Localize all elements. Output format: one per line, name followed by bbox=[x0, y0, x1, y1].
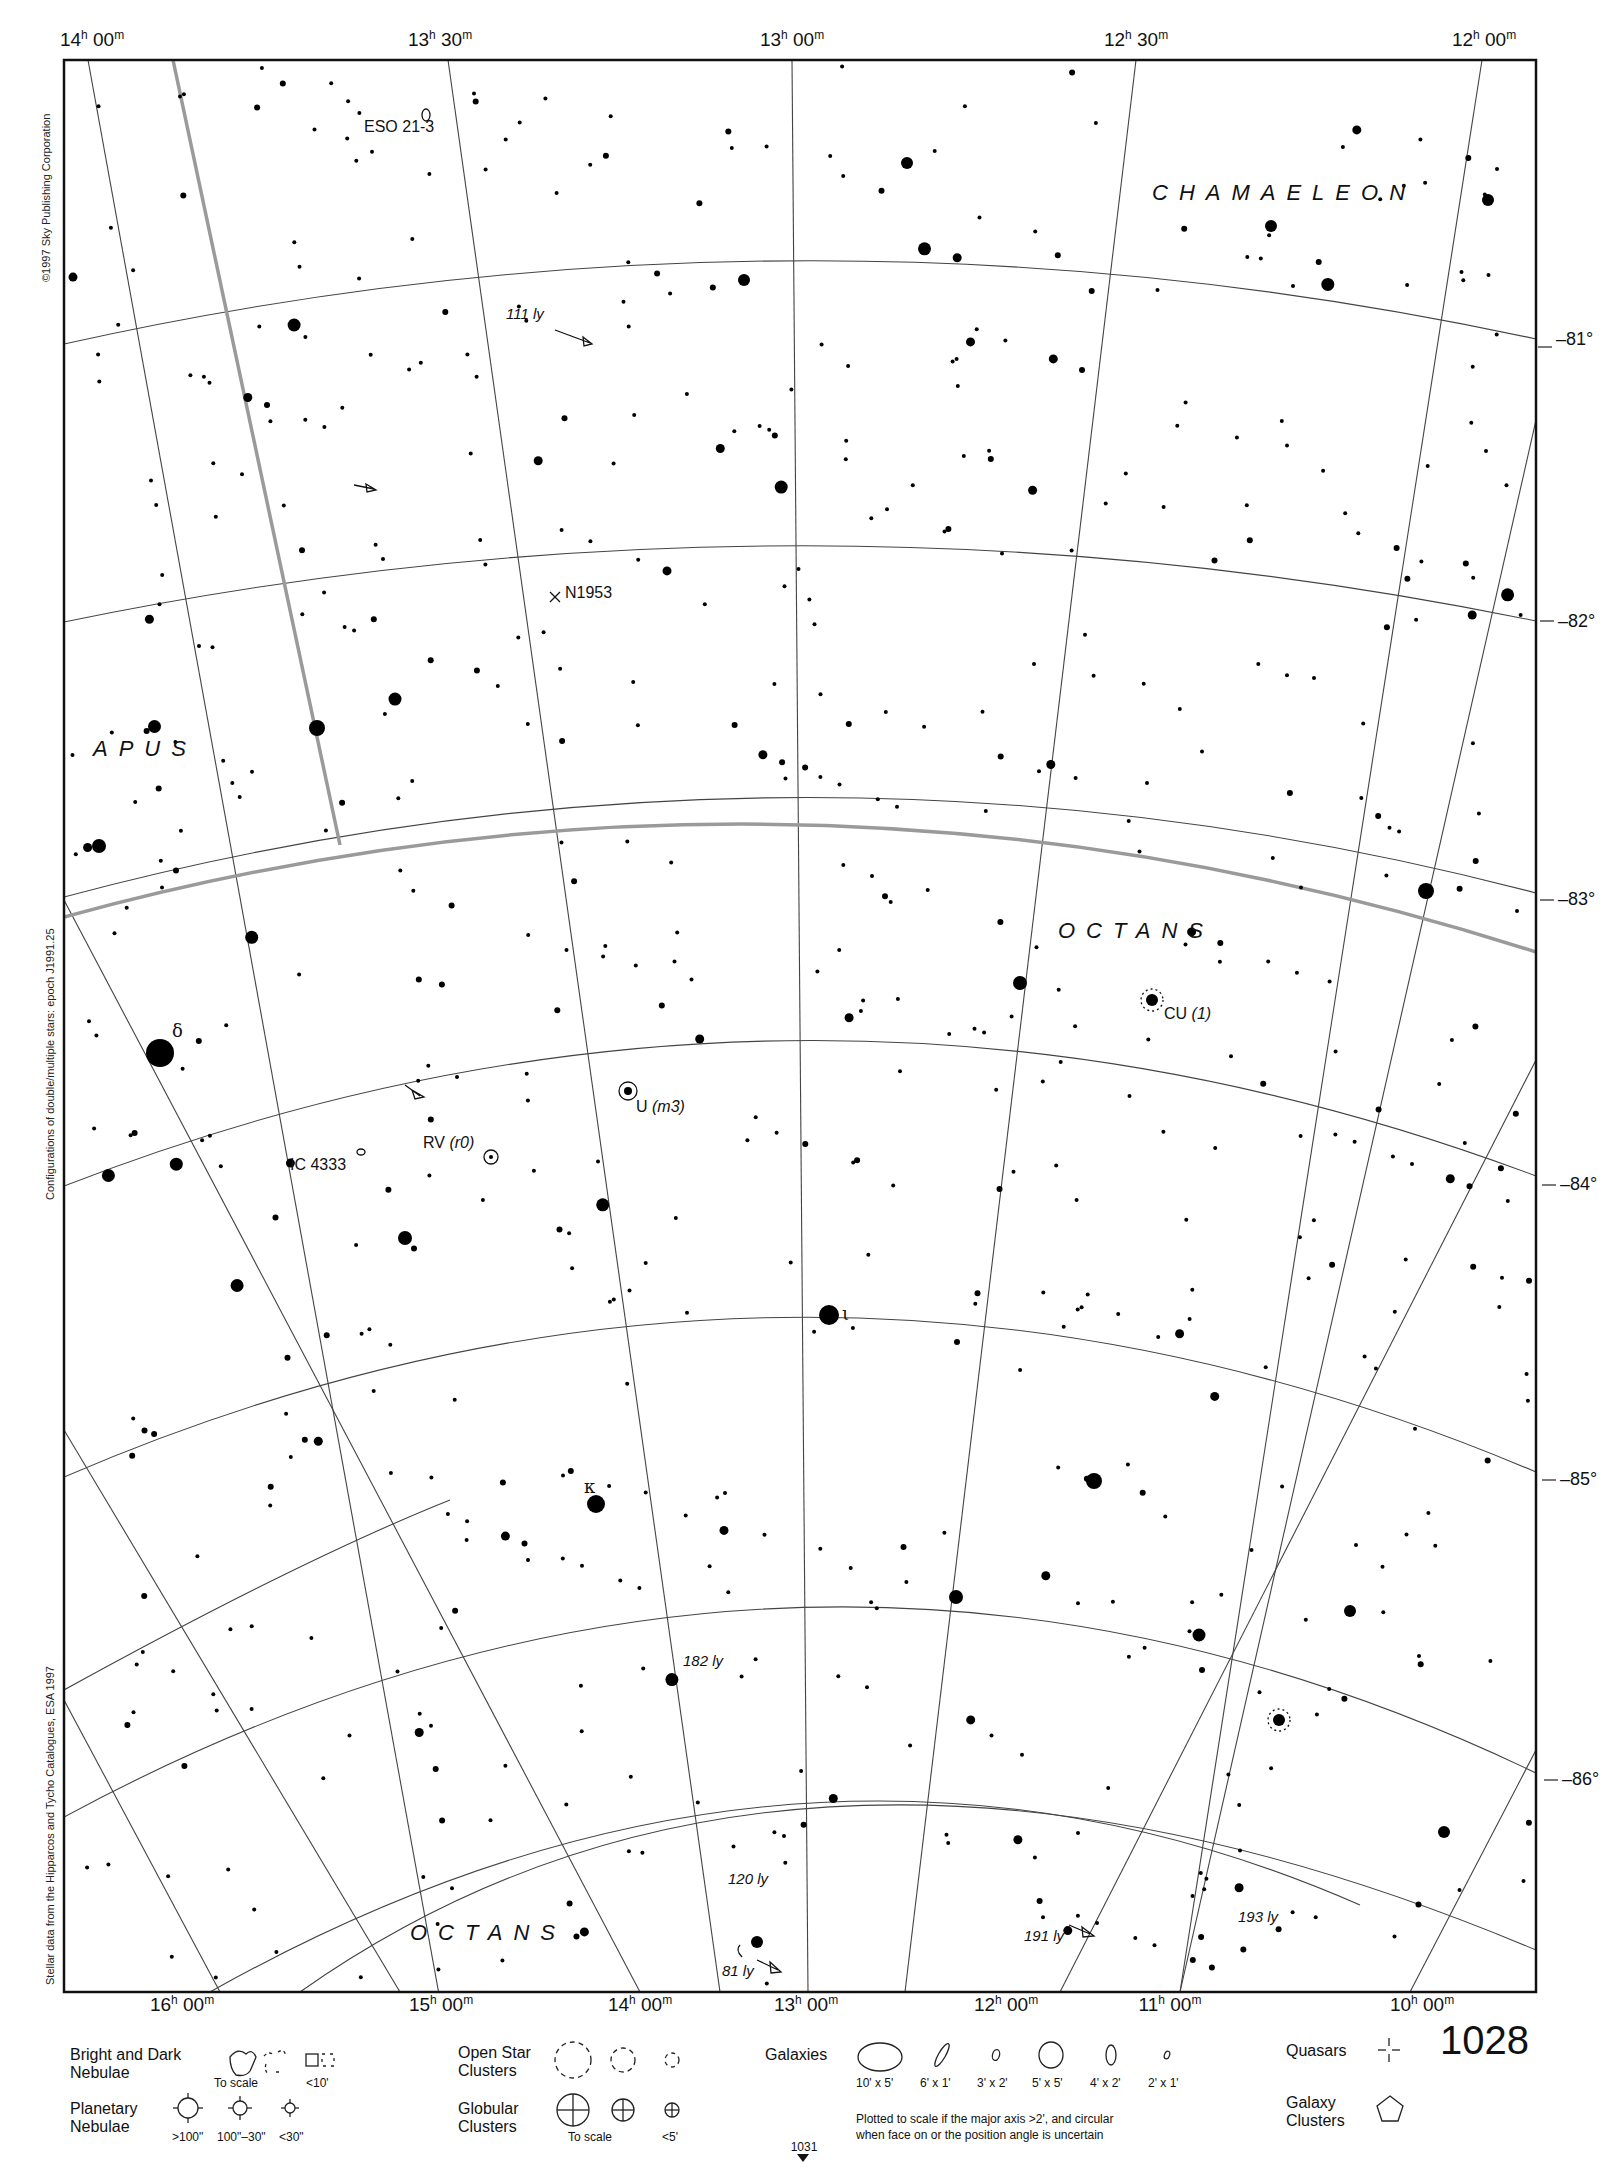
dec-label: –85° bbox=[1560, 1469, 1597, 1490]
proper-motion-arrow-icon bbox=[405, 1085, 424, 1099]
legend-globular-label: GlobularClusters bbox=[458, 2100, 518, 2136]
legend-quasars-label: Quasars bbox=[1286, 2042, 1346, 2060]
star-designation-iota: ι bbox=[842, 1303, 849, 1324]
constellation-label-octans: OCTANS bbox=[1058, 918, 1214, 944]
legend-planetary-label: PlanetaryNebulae bbox=[70, 2100, 138, 2136]
dec-label: –81° bbox=[1556, 329, 1593, 350]
galaxy-ic4333-icon bbox=[357, 1149, 365, 1155]
epoch-note: Configurations of double/multiple stars:… bbox=[44, 928, 56, 1200]
variable-label-rv: RV (r0) bbox=[423, 1134, 474, 1152]
legend-galaxy-size: 10' x 5' bbox=[856, 2076, 893, 2090]
legend-galaxy-size: 4' x 2' bbox=[1090, 2076, 1121, 2090]
ra-label: 12h 30m bbox=[1104, 28, 1168, 51]
star-designation-kappa: κ bbox=[584, 1476, 595, 1497]
dec-label: –86° bbox=[1562, 1769, 1599, 1790]
ra-label: 11h 00m bbox=[1139, 1993, 1202, 2016]
variable-label-u: U (m3) bbox=[636, 1098, 685, 1116]
ra-label: 13h 00m bbox=[774, 1993, 838, 2016]
distance-label: 182 ly bbox=[683, 1652, 723, 1669]
legend-lt10: <10' bbox=[306, 2076, 329, 2090]
legend-pn-size: >100" bbox=[172, 2130, 203, 2144]
ra-label: 10h 00m bbox=[1390, 1993, 1454, 2016]
dec-label: –82° bbox=[1558, 611, 1595, 632]
small-dark-nebula-icon bbox=[322, 2054, 334, 2066]
next-page-link[interactable]: 1031 bbox=[786, 2140, 822, 2154]
next-page-arrow-icon bbox=[797, 2154, 809, 2162]
distance-label: 111 ly bbox=[506, 305, 544, 322]
legend-galaxy-size: 2' x 1' bbox=[1148, 2076, 1179, 2090]
ra-label: 15h 00m bbox=[409, 1993, 473, 2016]
legend-galaxies-label: Galaxies bbox=[765, 2046, 827, 2064]
legend-glob-to-scale: To scale bbox=[568, 2130, 612, 2144]
proper-motion-arrow-icon bbox=[757, 1960, 781, 1973]
legend-galaxy-size: 6' x 1' bbox=[920, 2076, 951, 2090]
legend-lt5: <5' bbox=[662, 2130, 678, 2144]
ra-label: 12h 00m bbox=[1452, 28, 1516, 51]
ra-label: 16h 00m bbox=[150, 1993, 214, 2016]
dec-label: –83° bbox=[1558, 889, 1595, 910]
constellation-label-octans-bottom: OCTANS bbox=[410, 1920, 566, 1946]
bright-nebula-icon bbox=[230, 2051, 256, 2075]
dark-nebula-icon bbox=[264, 2051, 286, 2074]
legend-galaxy-clusters-label: GalaxyClusters bbox=[1286, 2094, 1345, 2130]
proper-motion-arrow-icon bbox=[1069, 1925, 1094, 1937]
distance-label: 191 ly bbox=[1024, 1927, 1064, 1944]
star-chart-canvas bbox=[0, 0, 1614, 2175]
legend-pn-size: 100"–30" bbox=[217, 2130, 266, 2144]
dec-label: –84° bbox=[1560, 1174, 1597, 1195]
nova-n1953-icon bbox=[550, 592, 560, 602]
legend-pn-size: <30" bbox=[279, 2130, 304, 2144]
copyright-note: ©1997 Sky Publishing Corporation bbox=[40, 114, 52, 282]
object-label-n1953: N1953 bbox=[565, 584, 612, 602]
proper-motion-arrow-icon bbox=[555, 330, 592, 346]
object-label-eso21-3: ESO 21-3 bbox=[364, 118, 434, 136]
page-number: 1028 bbox=[1440, 2018, 1529, 2063]
object-label-ic4333: IC 4333 bbox=[290, 1156, 346, 1174]
legend-galaxy-size: 5' x 5' bbox=[1032, 2076, 1063, 2090]
legend-galaxy-size: 3' x 2' bbox=[977, 2076, 1008, 2090]
legend-to-scale: To scale bbox=[214, 2076, 258, 2090]
constellation-label-chamaeleon: CHAMAELEON bbox=[1152, 180, 1416, 206]
arc-icon bbox=[738, 1945, 742, 1957]
ra-label: 13h 30m bbox=[408, 28, 472, 51]
small-nebula-icon bbox=[306, 2054, 318, 2066]
proper-motion-arrow-icon bbox=[354, 484, 376, 492]
constellation-label-apus: APUS bbox=[93, 736, 197, 762]
grid-lines bbox=[64, 60, 1536, 2000]
data-source-note: Stellar data from the Hipparcos and Tych… bbox=[44, 1666, 56, 1985]
legend-open-cluster-label: Open StarClusters bbox=[458, 2044, 531, 2080]
distance-label: 81 ly bbox=[722, 1962, 754, 1979]
legend-galaxy-note: Plotted to scale if the major axis >2', … bbox=[856, 2112, 1113, 2126]
variable-label-cu: CU (1) bbox=[1164, 1005, 1211, 1023]
ra-label: 14h 00m bbox=[60, 28, 124, 51]
legend-galaxy-note: when face on or the position angle is un… bbox=[856, 2128, 1104, 2142]
distance-label: 120 ly bbox=[728, 1870, 768, 1887]
ra-label: 12h 00m bbox=[974, 1993, 1038, 2016]
ra-label: 14h 00m bbox=[608, 1993, 672, 2016]
ra-label: 13h 00m bbox=[760, 28, 824, 51]
star-designation-delta: δ bbox=[172, 1020, 183, 1041]
legend-nebulae-label: Bright and DarkNebulae bbox=[70, 2046, 181, 2082]
distance-label: 193 ly bbox=[1238, 1908, 1278, 1925]
